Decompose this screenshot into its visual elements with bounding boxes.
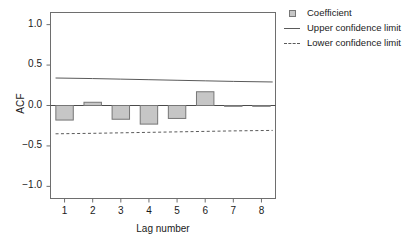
legend-item-upper-confidence-limit: Upper confidence limit [283, 21, 403, 35]
coefficient-bar [56, 106, 73, 121]
legend-label-upper-confidence-limit: Upper confidence limit [307, 22, 401, 34]
y-tick-label: 1.0 [4, 18, 42, 29]
y-axis-ticks [47, 25, 51, 187]
x-tick-label: 4 [134, 205, 164, 216]
coefficient-bar [112, 106, 129, 120]
y-axis-title: ACF [15, 73, 26, 133]
x-axis-title: Lag number [103, 223, 223, 234]
y-tick-label: 0.5 [4, 58, 42, 69]
x-tick-label: 3 [106, 205, 136, 216]
x-tick-label: 7 [218, 205, 248, 216]
coefficient-bar [253, 106, 270, 107]
x-axis-ticks [65, 199, 262, 203]
legend-label-coefficient: Coefficient [307, 7, 352, 19]
dashed-line-icon [283, 37, 301, 49]
chart-legend: Coefficient Upper confidence limit Lower… [283, 6, 403, 51]
square-swatch-icon [283, 7, 301, 19]
y-tick-label: −1.0 [4, 179, 42, 190]
legend-item-coefficient: Coefficient [283, 6, 403, 20]
x-tick-label: 1 [50, 205, 80, 216]
coefficient-bar [196, 92, 213, 106]
x-tick-label: 8 [246, 205, 276, 216]
legend-item-lower-confidence-limit: Lower confidence limit [283, 36, 403, 50]
coefficient-bar [140, 106, 157, 125]
x-tick-label: 5 [162, 205, 192, 216]
acf-correlogram-figure: 1.00.50.0−0.5−1.0 12345678 ACF Lag numbe… [0, 0, 405, 244]
y-tick-label: −0.5 [4, 139, 42, 150]
coefficient-bar [84, 102, 101, 105]
x-tick-label: 6 [190, 205, 220, 216]
x-tick-label: 2 [78, 205, 108, 216]
solid-line-icon [283, 22, 301, 34]
legend-label-lower-confidence-limit: Lower confidence limit [307, 37, 401, 49]
coefficient-bar [225, 106, 242, 107]
coefficient-bar [168, 106, 185, 119]
